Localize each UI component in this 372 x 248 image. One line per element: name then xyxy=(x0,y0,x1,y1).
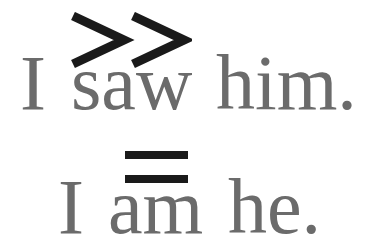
double-chevron-right-icon xyxy=(70,12,192,70)
word-i: I xyxy=(58,168,84,246)
equals-icon xyxy=(125,151,189,185)
word-he: he. xyxy=(228,168,321,246)
word-i: I xyxy=(20,44,46,122)
word-him: him. xyxy=(216,44,357,122)
